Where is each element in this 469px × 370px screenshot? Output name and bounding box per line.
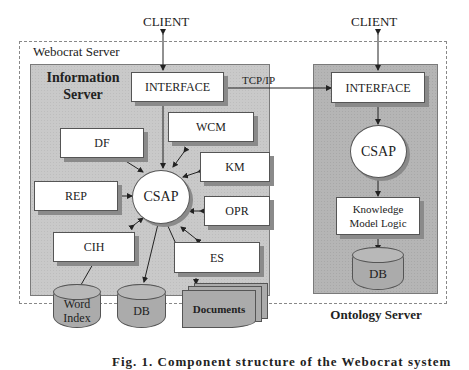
module-df: DF [60,128,144,158]
word-index-line2: Index [63,311,90,325]
module-wcm: WCM [168,112,254,142]
module-rep: REP [34,181,118,211]
module-km: KM [200,152,270,182]
knowledge-model-logic-line2: Model Logic [349,216,406,230]
module-es: ES [174,242,260,273]
figure-caption: Fig. 1. Component structure of the Weboc… [112,354,451,370]
module-opr: OPR [204,196,270,226]
word-index-label: Word Index [63,297,90,325]
interface-box-information: INTERFACE [131,72,224,102]
interface-box-ontology: INTERFACE [331,72,425,103]
db-store-information: DB [117,284,166,328]
tcpip-label: TCP/IP [242,74,275,86]
word-index-line1: Word [64,297,90,311]
db-store-ontology: DB [352,247,404,290]
documents-store: Documents [182,290,256,328]
csap-hub-information: CSAP [132,170,190,224]
db-label-ontology: DB [369,267,387,281]
db-label-information: DB [133,304,150,318]
knowledge-model-logic-line1: Knowledge [349,202,406,216]
ontology-server-title: Ontology Server [319,306,433,323]
knowledge-model-logic-box: Knowledge Model Logic [336,197,420,235]
module-cih: CIH [53,232,135,262]
word-index-store: Word Index [53,284,101,328]
csap-hub-ontology: CSAP [350,125,407,178]
